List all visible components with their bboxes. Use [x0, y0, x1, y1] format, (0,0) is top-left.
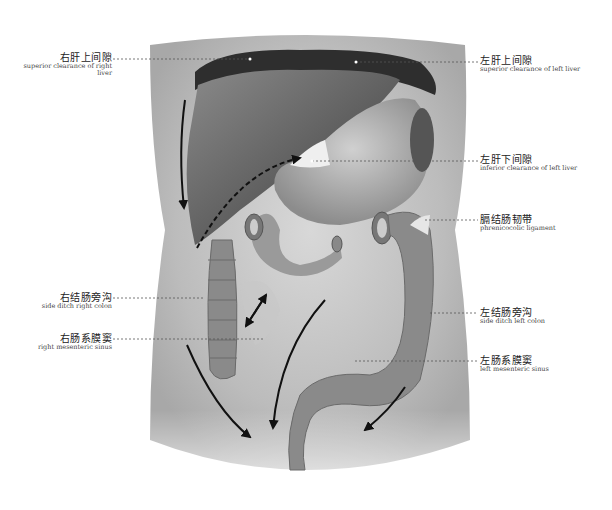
- label-side-ditch-left-colon: 左结肠旁沟 side ditch left colon: [480, 307, 610, 325]
- label-superior-right-liver: 右肝上间隙 superior clearance of right liver: [8, 52, 112, 77]
- spleen: [410, 108, 434, 172]
- label-phrenicocolic-ligament: 膈结肠韧带 phrenicocolic ligament: [480, 214, 610, 232]
- label-superior-left-liver: 左肝上间隙 superior clearance of left liver: [480, 55, 610, 73]
- label-right-mesenteric-sinus: 右肠系膜窦 right mesenteric sinus: [8, 333, 112, 351]
- label-inferior-left-liver: 左肝下间隙 inferior clearance of left liver: [480, 154, 610, 172]
- label-left-mesenteric-sinus: 左肠系膜窦 left mesenteric sinus: [480, 355, 610, 373]
- label-side-ditch-right-colon: 右结肠旁沟 side ditch right colon: [8, 292, 112, 310]
